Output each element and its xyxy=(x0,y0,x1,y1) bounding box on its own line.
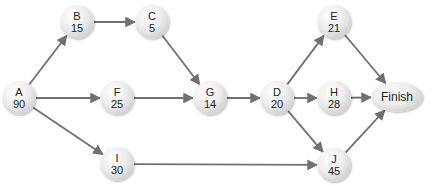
node-label: A xyxy=(15,87,22,98)
node-label: B xyxy=(73,11,80,22)
node-f: F 25 xyxy=(100,81,134,115)
edge-c-g-arrow xyxy=(162,36,199,85)
node-duration: 30 xyxy=(111,165,123,176)
node-finish: Finish xyxy=(371,82,423,112)
node-duration: 15 xyxy=(71,23,83,34)
node-label: H xyxy=(330,87,338,98)
edge-a-b-arrow xyxy=(29,36,66,85)
node-label: D xyxy=(273,87,281,98)
edge-a-i-arrow xyxy=(33,107,103,154)
node-a: A 90 xyxy=(2,81,36,115)
node-label: C xyxy=(148,11,156,22)
node-label: J xyxy=(331,154,337,165)
node-e: E 21 xyxy=(317,5,351,39)
node-g: G 14 xyxy=(193,81,227,115)
node-duration: 45 xyxy=(328,166,340,177)
network-diagram: A 90 B 15 C 5 F 25 I 30 G 14 D 20 E 21 H… xyxy=(0,0,441,185)
node-i: I 30 xyxy=(100,147,134,181)
node-duration: 28 xyxy=(328,99,340,110)
node-b: B 15 xyxy=(60,5,94,39)
node-label: F xyxy=(114,87,121,98)
node-duration: 14 xyxy=(204,99,216,110)
edge-e-finish-arrow xyxy=(345,35,386,83)
node-duration: 25 xyxy=(111,99,123,110)
node-duration: 5 xyxy=(149,23,155,34)
node-c: C 5 xyxy=(135,5,169,39)
node-label: G xyxy=(206,87,215,98)
edge-j-finish-arrow xyxy=(346,110,385,152)
node-d: D 20 xyxy=(260,81,294,115)
node-label: I xyxy=(115,153,118,164)
edge-d-e-arrow xyxy=(287,36,324,85)
edge-i-j-arrow xyxy=(134,164,317,165)
node-duration: 90 xyxy=(13,99,25,110)
node-h: H 28 xyxy=(317,81,351,115)
finish-label: Finish xyxy=(381,90,413,104)
node-label: E xyxy=(330,11,337,22)
node-duration: 21 xyxy=(328,23,340,34)
node-j: J 45 xyxy=(317,148,351,182)
edge-d-j-arrow xyxy=(288,111,323,152)
node-duration: 20 xyxy=(271,99,283,110)
